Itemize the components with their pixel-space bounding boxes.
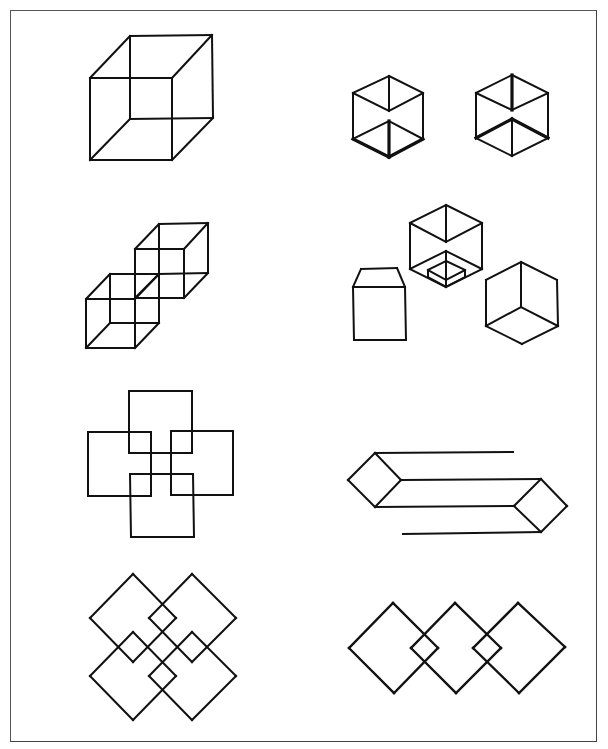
figure-line [375,452,513,453]
figure-line [90,36,130,78]
figure-line [212,35,213,118]
figure-line [394,648,438,693]
figure-line [446,261,465,270]
figure-line [521,262,557,280]
necker-cube-figure: Necker cube [90,35,213,160]
figure-line [411,648,456,693]
figure-line [349,603,393,648]
figure-line [486,326,522,344]
figure-line [172,35,212,78]
figure-line [557,280,558,326]
hexagon-cube-right-figure: Hexagonal cube outline (right) [476,75,548,156]
figure-line [348,480,375,507]
figure-line [486,307,521,326]
figure-line [86,323,110,348]
figure-line [521,307,558,326]
figure-line [389,121,423,139]
figure-line [541,506,567,532]
figure-line [192,676,236,720]
figure-line [135,224,159,249]
figure-line [90,574,133,618]
figure-line [519,647,565,693]
figure-line [130,474,131,537]
figure-line [446,205,482,223]
figure-canvas: Necker cubeHexagonal cube outline (left)… [0,0,608,749]
figure-line [192,574,236,618]
corner-cube-figure: Hexagonal cube seen from below [486,262,558,344]
figure-line [172,118,213,160]
figure-line [375,506,514,507]
figure-line [86,274,110,299]
figure-line [375,453,401,480]
hexagon-cube-left-figure: Hexagonal cube outline (left) [353,76,423,157]
figure-line [353,269,361,287]
figure-line [405,287,406,340]
double-cube-figure: Two joined wire cubes [86,223,208,348]
figure-line [486,262,521,280]
interlocked-squares-cross-figure: Four overlapping squares in cross arrang… [88,391,233,537]
figure-line [401,479,541,480]
impossible-beam-figure: Impossible bar with diamond ends [348,452,567,534]
figure-line [518,603,565,647]
figure-line [514,506,541,532]
figure-line [90,676,133,720]
figure-line [476,75,512,93]
figure-line [522,326,558,344]
figure-line [397,268,405,287]
figure-line [541,479,567,506]
open-cube-with-inset-figure: Hexagonal cube with inner square well [410,205,482,287]
figure-line [193,474,194,537]
figure-line [389,76,423,93]
figure-line [428,261,446,270]
figure-line [410,223,446,242]
figure-line-emphasis [476,119,512,138]
figure-line [349,648,394,693]
interlaced-diamonds-four-figure: Four interlaced diamonds [90,574,236,720]
figure-line [514,479,541,506]
figure-line [410,251,446,269]
figure-line [512,93,548,110]
figure-line [130,35,212,36]
figure-line [184,223,208,249]
figure-line [135,323,159,348]
figure-line-emphasis [389,139,423,157]
figure-line [410,205,446,223]
figure-line [446,223,482,242]
figure-line [348,453,375,480]
figure-line [361,268,397,269]
figure-line [130,118,213,119]
figure-line [184,273,208,298]
figure-line [159,273,208,274]
figure-line [512,75,548,93]
figure-line [476,93,512,110]
figure-line [403,532,541,534]
figure-line [476,138,512,156]
figure-line-emphasis [353,139,389,157]
figure-line [446,251,482,269]
figure-line [353,121,389,139]
figure-line [375,480,401,507]
figure-line [512,138,548,156]
figure-line [393,603,438,648]
figure-line [159,223,208,224]
interlaced-diamonds-three-figure: Three interlaced diamonds in a row [349,603,565,693]
figure-line [411,603,455,648]
figure-line [353,93,389,111]
figure-line [353,287,354,340]
figure-line-emphasis [512,119,548,138]
figure-line [353,76,389,93]
figure-line [135,274,159,298]
figure-line [90,119,130,160]
box-with-lid-figure: Box with tapered top [353,268,406,340]
figure-line [389,93,423,111]
